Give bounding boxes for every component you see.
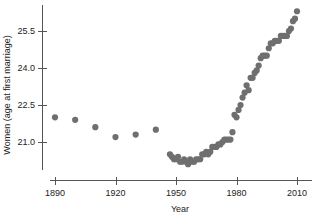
data-point xyxy=(112,134,118,140)
data-point xyxy=(237,102,243,108)
data-point xyxy=(229,129,235,135)
data-point xyxy=(153,127,159,133)
x-tick-label: 1950 xyxy=(166,188,186,198)
y-axis-title: Women (age at first marriage) xyxy=(2,35,12,154)
data-point xyxy=(294,8,300,14)
x-tick-label: 2010 xyxy=(287,188,307,198)
data-point xyxy=(227,136,233,142)
y-tick-label: 21.0 xyxy=(17,137,35,147)
x-axis: 18901920195019802010 xyxy=(45,177,312,198)
data-point xyxy=(233,114,239,120)
data-point xyxy=(92,124,98,130)
chart-figure: 21.022.524.025.5 18901920195019802010 Ye… xyxy=(0,0,318,218)
data-point xyxy=(133,132,139,138)
y-tick-label: 24.0 xyxy=(17,63,35,73)
x-tick-label: 1920 xyxy=(105,188,125,198)
scatter-plot: 21.022.524.025.5 18901920195019802010 Ye… xyxy=(0,0,318,218)
x-axis-title: Year xyxy=(171,204,189,214)
y-tick-label: 22.5 xyxy=(17,100,35,110)
x-tick-label: 1980 xyxy=(226,188,246,198)
data-point xyxy=(292,16,298,22)
data-point xyxy=(288,25,294,31)
y-axis: 21.022.524.025.5 xyxy=(17,5,47,170)
data-point xyxy=(246,87,252,93)
data-points xyxy=(52,8,300,167)
x-tick-label: 1890 xyxy=(45,188,65,198)
data-point xyxy=(264,53,270,59)
data-point xyxy=(72,117,78,123)
data-point xyxy=(52,114,58,120)
data-point xyxy=(256,62,262,68)
y-tick-label: 25.5 xyxy=(17,26,35,36)
